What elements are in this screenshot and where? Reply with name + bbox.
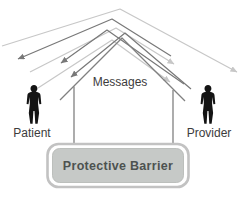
provider-person-icon: [201, 85, 216, 124]
patient-person-icon: [27, 85, 42, 124]
protective-barrier-label: Protective Barrier: [63, 159, 173, 173]
barrier-roof-structure: [60, 38, 185, 144]
protective-barrier-diagram: Messages Patient Provider Protective Bar…: [0, 0, 251, 200]
message-arrow-light-mid: [30, 28, 174, 72]
protective-barrier-box: Protective Barrier: [48, 144, 189, 187]
messages-label: Messages: [93, 75, 148, 89]
patient-label: Patient: [13, 126, 51, 140]
diagram-canvas: Messages Patient Provider Protective Bar…: [0, 0, 251, 200]
provider-label: Provider: [187, 126, 232, 140]
